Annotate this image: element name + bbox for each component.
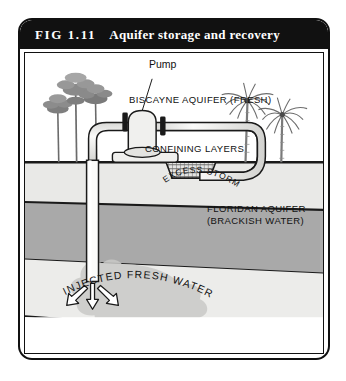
well-pipe-highlight	[89, 160, 92, 281]
floridan-aquifer-line2: (BRACKISH WATER)	[207, 215, 304, 226]
floridan-aquifer-line1: FLORIDAN AQUIFER	[207, 203, 306, 214]
diagram-panel: EXCESS STORM WATER INJECTED FRESH WATER …	[24, 52, 324, 354]
well-casing	[87, 160, 99, 281]
pump-label: Pump	[149, 58, 176, 70]
pipe-flange	[122, 113, 127, 132]
well-pipe	[87, 160, 99, 281]
figure-frame: FIG 1.11 Aquifer storage and recovery	[18, 18, 330, 360]
figure-title-bar: FIG 1.11 Aquifer storage and recovery	[20, 20, 328, 49]
confining-layers-label: CONFINING LAYERS	[145, 143, 244, 154]
figure-title: Aquifer storage and recovery	[109, 27, 280, 43]
figure-container: FIG 1.11 Aquifer storage and recovery	[0, 0, 346, 381]
pipe-flange	[160, 117, 165, 136]
floridan-aquifer-label: FLORIDAN AQUIFER (BRACKISH WATER)	[207, 203, 306, 227]
biscayne-aquifer-label: BISCAYNE AQUIFER (FRESH)	[129, 94, 271, 105]
figure-number: FIG 1.11	[35, 27, 96, 43]
